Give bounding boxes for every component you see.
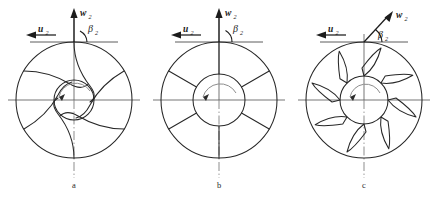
panel-c-beta2-subscript: 2 bbox=[385, 35, 388, 42]
panel-b-blade-3 bbox=[242, 113, 270, 129]
impeller-diagram-svg: w 2 u 2 β 2 a bbox=[0, 0, 438, 200]
panel-b-caption: b bbox=[217, 180, 221, 190]
panel-b-w2-arrowhead bbox=[215, 8, 222, 18]
panel-b-blade-5 bbox=[169, 113, 197, 129]
figure-container: w 2 u 2 β 2 a bbox=[0, 0, 438, 200]
panel-b: w 2 u 2 β 2 b bbox=[153, 8, 285, 190]
panel-c: w 2 u 2 β 2 c bbox=[298, 10, 430, 190]
panel-b-beta2-arc bbox=[226, 31, 233, 43]
panel-a-blade-2 bbox=[76, 71, 124, 118]
panel-c-blade-8 bbox=[326, 51, 359, 84]
panel-b-u2-arrowhead bbox=[171, 32, 181, 39]
panel-a: w 2 u 2 β 2 a bbox=[8, 8, 140, 190]
panel-a-u2-label: u bbox=[38, 24, 43, 34]
panel-a-caption: a bbox=[72, 180, 76, 190]
panel-a-beta2-subscript: 2 bbox=[95, 29, 98, 36]
panel-a-w2-subscript: 2 bbox=[89, 13, 92, 20]
panel-a-blade-1 bbox=[74, 42, 94, 102]
panel-c-blade-2 bbox=[380, 62, 413, 95]
panel-c-w2-subscript: 2 bbox=[405, 15, 408, 22]
panel-c-blade-1 bbox=[362, 48, 381, 76]
panel-c-u2-subscript: 2 bbox=[336, 29, 339, 36]
panel-b-beta2-label: β bbox=[232, 23, 238, 34]
panel-c-u2-arrowhead bbox=[316, 32, 326, 39]
panel-c-caption: c bbox=[362, 180, 366, 190]
panel-b-u2-label: u bbox=[183, 24, 188, 34]
panel-a-u2-subscript: 2 bbox=[46, 29, 49, 36]
panel-a-beta2-label: β bbox=[87, 23, 93, 34]
panel-c-blade-3 bbox=[388, 98, 416, 117]
panel-b-blade-2 bbox=[242, 71, 270, 87]
panel-a-w2-label: w bbox=[80, 8, 87, 18]
panel-a-u2-arrowhead bbox=[26, 32, 36, 39]
panel-c-blade-6 bbox=[315, 105, 348, 138]
panel-c-w2-label: w bbox=[396, 10, 403, 20]
panel-c-blade-7 bbox=[312, 83, 340, 102]
panel-c-beta2-label: β bbox=[377, 29, 383, 40]
panel-b-u2-subscript: 2 bbox=[191, 29, 194, 36]
panel-b-w2-label: w bbox=[225, 8, 232, 18]
panel-a-blade-6 bbox=[24, 71, 88, 87]
panel-a-w2-arrowhead bbox=[70, 8, 77, 18]
panel-a-blade-5 bbox=[24, 82, 72, 129]
panel-a-blade-4 bbox=[54, 98, 74, 158]
panel-b-blade-6 bbox=[169, 71, 197, 87]
panel-c-blade-4 bbox=[369, 116, 402, 149]
panel-c-u2-label: u bbox=[328, 24, 333, 34]
panel-b-beta2-subscript: 2 bbox=[240, 29, 243, 36]
panel-b-w2-subscript: 2 bbox=[234, 13, 237, 20]
panel-a-beta2-arc bbox=[80, 31, 87, 42]
panel-c-w2-arrowhead bbox=[385, 11, 394, 22]
panel-a-blade-3 bbox=[60, 113, 124, 129]
panel-c-blade-5 bbox=[347, 124, 366, 152]
